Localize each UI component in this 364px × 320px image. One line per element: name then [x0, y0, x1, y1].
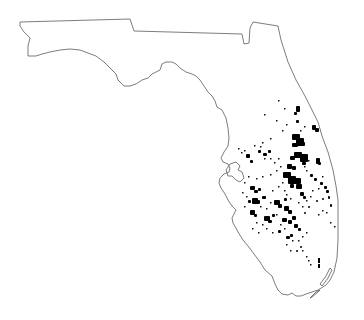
occurrence-speck [256, 222, 258, 224]
occurrence-patch [287, 164, 292, 169]
occurrence-patch [278, 204, 282, 208]
occurrence-speck [270, 138, 272, 140]
occurrence-speck [278, 100, 280, 102]
map-canvas [0, 0, 364, 320]
occurrence-patch [330, 204, 332, 207]
occurrence-patch [310, 174, 313, 177]
occurrence-patch [303, 196, 306, 199]
occurrence-speck [286, 124, 288, 126]
occurrence-patch [304, 212, 306, 214]
occurrence-patch [254, 214, 257, 217]
occurrence-speck [276, 120, 278, 122]
occurrence-patch [250, 210, 255, 215]
occurrence-patch [315, 128, 319, 132]
occurrence-speck [252, 228, 254, 230]
occurrence-patch [294, 178, 301, 184]
occurrence-patch [268, 220, 272, 223]
occurrence-patch [300, 142, 305, 146]
occurrence-speck [286, 244, 288, 246]
occurrence-speck [290, 198, 292, 200]
occurrence-patch [290, 156, 295, 160]
occurrence-speck [334, 226, 336, 228]
occurrence-patch [320, 182, 323, 185]
occurrence-patch [294, 112, 297, 115]
occurrence-speck [298, 202, 300, 204]
occurrence-patch [292, 143, 298, 147]
occurrence-speck [292, 240, 294, 242]
occurrence-patch [300, 154, 308, 162]
occurrence-patch [250, 186, 255, 190]
occurrence-speck [242, 192, 244, 194]
occurrence-speck [241, 152, 243, 154]
occurrence-patch [246, 154, 250, 158]
occurrence-speck [238, 148, 240, 150]
occurrence-speck [330, 222, 332, 224]
occurrence-patch [292, 166, 296, 170]
occurrence-speck [262, 176, 264, 178]
occurrence-speck [302, 206, 304, 208]
occurrence-speck [276, 170, 278, 172]
occurrence-patch [254, 190, 258, 193]
occurrence-patch [298, 228, 301, 231]
occurrence-patch [286, 236, 290, 239]
occurrence-speck [310, 264, 312, 266]
occurrence-speck [310, 196, 312, 198]
occurrence-patch [263, 153, 267, 156]
occurrence-speck [272, 190, 274, 192]
occurrence-patch [248, 200, 251, 203]
occurrence-patch [290, 234, 293, 237]
occurrence-speck [302, 236, 304, 238]
occurrence-patch [284, 198, 287, 201]
occurrence-speck [282, 130, 284, 132]
occurrence-speck [246, 196, 248, 198]
occurrence-speck [308, 260, 310, 262]
occurrence-patch [284, 206, 289, 211]
occurrence-patch [322, 198, 324, 200]
occurrence-patch [296, 106, 300, 112]
occurrence-speck [302, 250, 304, 252]
occurrence-speck [264, 158, 266, 160]
occurrence-speck [270, 174, 272, 176]
occurrence-patch [316, 200, 318, 202]
occurrence-speck [256, 178, 258, 180]
occurrence-patch [300, 246, 302, 248]
occurrence-speck [266, 208, 268, 210]
occurrence-speck [318, 214, 320, 216]
occurrence-patches [246, 106, 332, 268]
occurrence-speck [276, 214, 278, 216]
occurrence-patch [288, 210, 292, 214]
occurrence-speck [282, 182, 284, 184]
occurrence-patch [278, 230, 281, 233]
occurrence-patch [318, 264, 320, 268]
occurrence-patch [308, 206, 310, 208]
occurrence-patch [268, 150, 271, 153]
occurrence-patch [318, 258, 320, 263]
occurrence-patch [296, 120, 299, 123]
key-island [320, 268, 332, 286]
occurrence-speck [272, 232, 274, 234]
occurrence-speck [266, 228, 268, 230]
occurrence-speck [260, 206, 262, 208]
occurrence-speck [306, 200, 308, 202]
occurrence-speck [280, 166, 282, 168]
occurrence-speck [322, 210, 324, 212]
occurrence-speck [262, 224, 264, 226]
occurrence-speck [312, 190, 314, 192]
occurrence-speck [278, 158, 280, 160]
occurrence-patch [302, 162, 306, 165]
occurrence-patch [292, 216, 296, 220]
occurrence-speck [270, 158, 272, 160]
occurrence-speck [304, 126, 306, 128]
occurrence-speck [322, 176, 324, 178]
occurrence-speck [308, 160, 310, 162]
occurrence-speck [284, 228, 286, 230]
occurrence-speck [248, 176, 250, 178]
occurrence-patch [262, 196, 266, 199]
occurrence-patch [314, 178, 317, 181]
occurrence-speck [306, 232, 308, 234]
occurrence-patch [288, 220, 292, 224]
occurrence-patch [272, 214, 275, 217]
occurrence-patch [296, 250, 298, 252]
occurrence-speck [304, 166, 306, 168]
occurrence-speck [306, 170, 308, 172]
